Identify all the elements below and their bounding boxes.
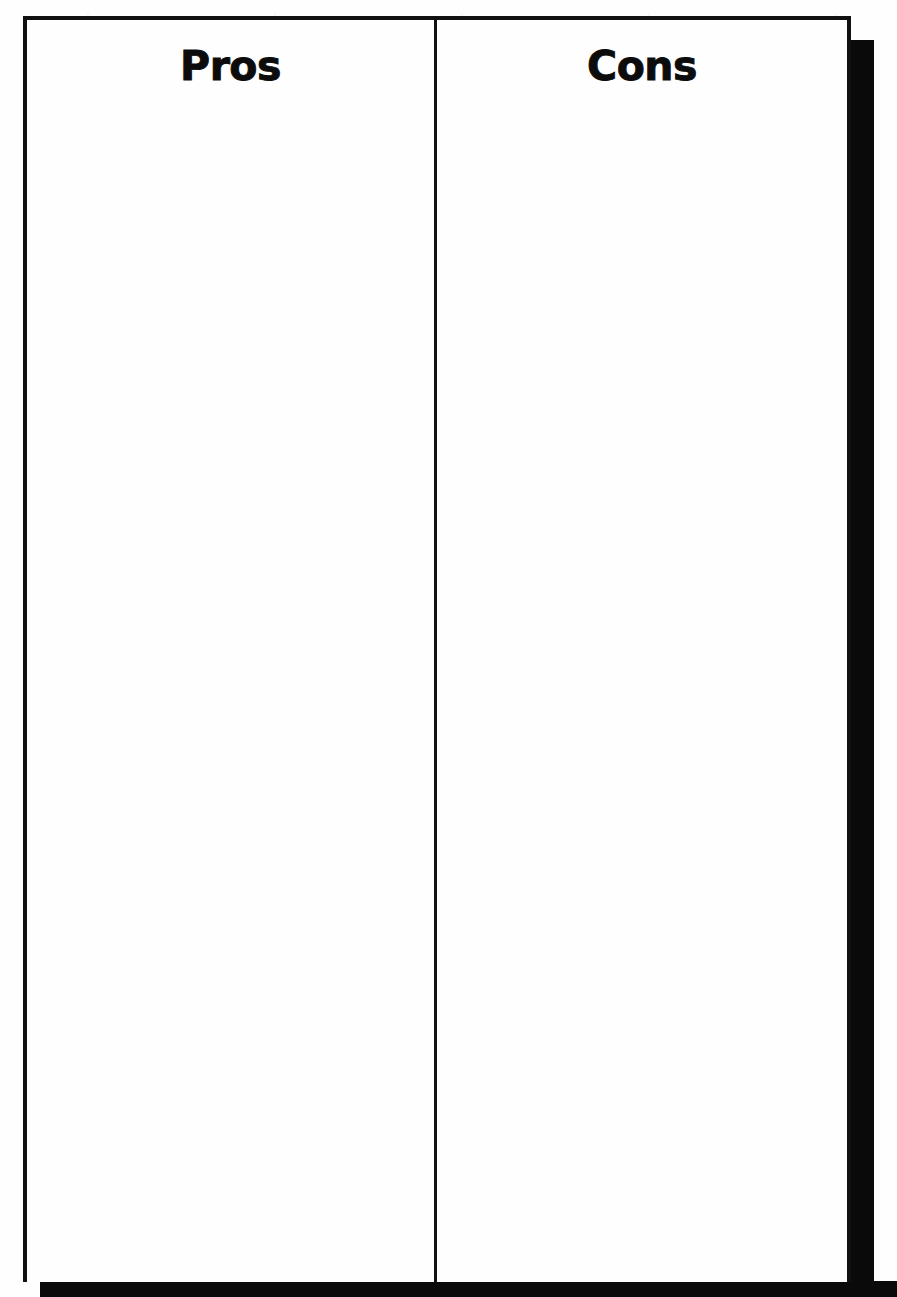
card-shadow-bottom — [40, 1281, 897, 1297]
column-body-cons[interactable] — [437, 88, 847, 1268]
table-column-pros: Pros — [27, 20, 437, 1282]
pros-cons-table: Pros Cons — [23, 16, 851, 1282]
column-header-pros: Pros — [27, 45, 434, 88]
table-column-cons: Cons — [437, 20, 847, 1282]
column-header-cons: Cons — [437, 45, 847, 88]
column-body-pros[interactable] — [27, 88, 434, 1268]
page-canvas: Pros Cons — [0, 0, 897, 1297]
